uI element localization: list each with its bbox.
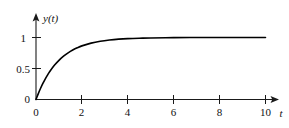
x-tick-label-4: 4 (125, 106, 131, 118)
x-axis-title: t (279, 107, 283, 119)
x-tick-label-10: 10 (260, 106, 272, 118)
chart-figure: 1 0.5 0 0 2 4 6 8 10 y(t) t (0, 0, 289, 128)
y-tick-label-zero: 0 (25, 93, 31, 105)
x-tick-label-0: 0 (33, 106, 39, 118)
x-tick-label-2: 2 (79, 106, 85, 118)
x-tick-label-8: 8 (217, 106, 223, 118)
y-tick-label-1: 1 (21, 32, 27, 44)
response-curve (36, 37, 266, 99)
y-tick-label-half: 0.5 (16, 63, 30, 75)
x-tick-label-6: 6 (171, 106, 177, 118)
plot-canvas: 1 0.5 0 0 2 4 6 8 10 y(t) t (0, 0, 289, 128)
y-axis-title: y(t) (42, 12, 59, 25)
